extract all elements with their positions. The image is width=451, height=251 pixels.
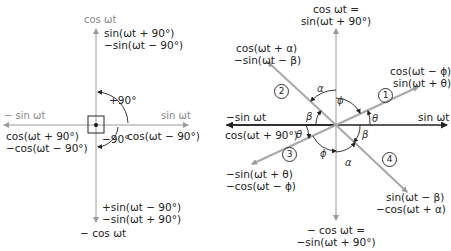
phasor-1-label-2: sin(ωt + θ) [393,77,451,89]
origin-dot [94,123,98,127]
angle-alpha-bottom: α [345,157,352,169]
angle-beta-upper: β [306,111,312,123]
angle-theta-left: θ [296,129,302,141]
angle-phi-bottom: ϕ [320,148,327,160]
right-axis-up-label-1: cos ωt = [304,3,368,15]
left-up-label-1: sin(ωt + 90°) [104,27,174,39]
right-axis-up-label-2: sin(ωt + 90°) [294,15,378,27]
right-axis-down-label-2: −sin(ωt + 90°) [290,236,382,248]
phasor-3-label-2: −cos(ωt − ϕ) [226,180,296,192]
left-axis-up-label: cos ωt [84,14,116,26]
left-angle-minus-90: −90° [102,133,129,145]
angle-beta-lower: β [362,129,368,141]
phasor-4-label-2: −cos(ωt + α) [376,203,446,215]
right-axis-right-label: sin ωt [418,111,449,123]
left-axis-right-label: sin ωt [161,110,191,122]
phasor-1-label-1: cos(ωt − ϕ) [390,65,451,77]
right-axis-down-label-1: − cos ωt = [300,224,372,236]
angle-alpha-top: α [317,83,324,95]
right-axis-left-label-1: −sin ωt [226,111,266,123]
phasor-2-number: 2 [274,84,289,99]
phasor-3-number: 3 [282,147,297,162]
left-up-label-2: −sin(ωt − 90°) [104,39,183,51]
left-angle-plus-90: +90° [109,94,136,106]
left-right-label-1: cos(ωt − 90°) [127,130,200,142]
left-down-label-1: +sin(ωt − 90°) [102,201,181,213]
phasor-2-label-2: −sin(ωt − β) [234,54,301,66]
phasor-3-label-1: −sin(ωt + θ) [226,168,293,180]
phasor-1-number: 1 [378,88,393,103]
left-axis-left-label: − sin ωt [4,110,45,122]
left-down-label-2: −sin(ωt + 90°) [102,213,181,225]
left-left-label-1: cos(ωt + 90°) [6,130,79,142]
left-left-label-2: −cos(ωt − 90°) [6,142,88,154]
angle-theta-right: θ [372,113,378,125]
angle-phi-top: ϕ [337,95,344,107]
phasor-4-label-1: sin(ωt − β) [386,191,444,203]
right-axis-left-label-2: cos(ωt + 90°) [225,129,298,141]
left-axis-down-label: − cos ωt [80,227,126,239]
phasor-4-number: 4 [382,152,397,167]
phasor-2-label-1: cos(ωt + α) [236,42,297,54]
